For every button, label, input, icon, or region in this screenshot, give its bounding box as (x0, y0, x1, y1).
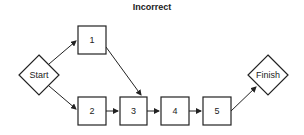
node-2-label: 2 (89, 106, 94, 116)
node-1: 1 (78, 26, 106, 54)
node-1-label: 1 (89, 35, 94, 45)
network-diagram: Start 1 2 3 4 5 Finish (0, 0, 304, 135)
node-4: 4 (161, 97, 189, 125)
start-label: Start (29, 70, 49, 80)
finish-label: Finish (256, 70, 280, 80)
edge-start-2 (49, 86, 76, 109)
edge-start-1 (49, 41, 76, 64)
node-4-label: 4 (172, 106, 177, 116)
node-3: 3 (120, 97, 147, 125)
edge-1-3 (106, 47, 141, 95)
node-3-label: 3 (131, 106, 136, 116)
edge-5-finish (231, 87, 256, 111)
node-5: 5 (203, 97, 231, 125)
node-2: 2 (78, 97, 106, 125)
node-5-label: 5 (214, 106, 219, 116)
